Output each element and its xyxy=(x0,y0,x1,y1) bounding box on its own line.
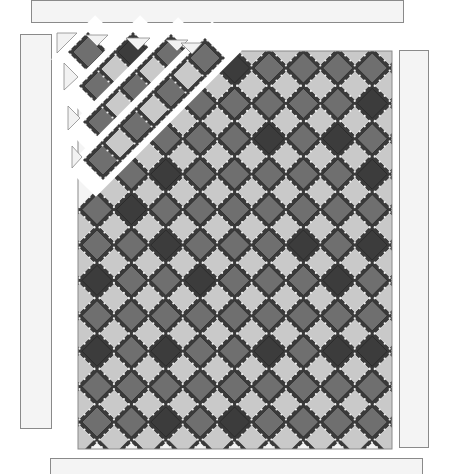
quilt-center xyxy=(0,0,452,474)
